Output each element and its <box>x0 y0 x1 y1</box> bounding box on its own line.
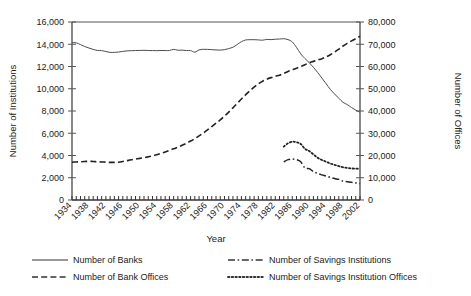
series-line-2 <box>284 159 360 184</box>
left-axis-tick-label: 12,000 <box>36 62 64 72</box>
x-axis-tick-label: 1978 <box>239 200 260 221</box>
right-axis-tick-label: 0 <box>368 195 373 205</box>
left-axis-tick-label: 14,000 <box>36 40 64 50</box>
right-axis-tick-label: 40,000 <box>368 106 396 116</box>
right-axis-tick-label: 20,000 <box>368 151 396 161</box>
x-axis-tick-label: 1934 <box>52 200 73 221</box>
right-axis-tick-label: 60,000 <box>368 62 396 72</box>
x-axis-tick-label: 1966 <box>188 200 209 221</box>
x-axis-tick-label: 1994 <box>306 200 327 221</box>
left-axis-title: Number of Institutions <box>7 65 18 158</box>
x-axis-tick-label: 1962 <box>171 200 192 221</box>
left-axis-tick-label: 2,000 <box>41 173 64 183</box>
series-line-3 <box>284 142 360 169</box>
series-line-0 <box>72 39 360 113</box>
x-axis-tick-label: 1950 <box>120 200 141 221</box>
legend-label-3: Number of Savings Institution Offices <box>269 272 417 282</box>
x-axis-tick-label: 1982 <box>255 200 276 221</box>
x-axis-tick-label: 1958 <box>154 200 175 221</box>
x-axis-title: Year <box>206 233 225 244</box>
x-axis-tick-label: 1946 <box>103 200 124 221</box>
left-axis-tick-label: 16,000 <box>36 17 64 27</box>
right-axis-tick-label: 80,000 <box>368 17 396 27</box>
x-axis-tick-label: 1938 <box>69 200 90 221</box>
right-axis-tick-label: 10,000 <box>368 173 396 183</box>
legend-label-2: Number of Bank Offices <box>73 272 169 282</box>
x-axis-tick-label: 2002 <box>340 200 361 221</box>
x-axis-tick-label: 1990 <box>289 200 310 221</box>
left-axis-tick-label: 10,000 <box>36 84 64 94</box>
chart-canvas: 02,0004,0006,0008,00010,00012,00014,0001… <box>0 0 471 296</box>
right-axis-tick-label: 50,000 <box>368 84 396 94</box>
right-axis-tick-label: 70,000 <box>368 40 396 50</box>
legend-label-0: Number of Banks <box>73 255 143 265</box>
right-axis-tick-label: 30,000 <box>368 129 396 139</box>
x-axis-tick-label: 1970 <box>205 200 226 221</box>
left-axis-tick-label: 4,000 <box>41 151 64 161</box>
left-axis-tick-label: 6,000 <box>41 129 64 139</box>
chart-figure: 02,0004,0006,0008,00010,00012,00014,0001… <box>0 0 471 296</box>
x-axis-tick-label: 1942 <box>86 200 107 221</box>
x-axis-tick-label: 1954 <box>137 200 158 221</box>
x-axis-tick-label: 1974 <box>222 200 243 221</box>
x-axis-tick-label: 1998 <box>323 200 344 221</box>
right-axis-title: Number of Offices <box>453 73 464 150</box>
series-line-1 <box>72 36 360 162</box>
legend-label-1: Number of Savings Institutions <box>269 255 392 265</box>
left-axis-tick-label: 8,000 <box>41 106 64 116</box>
x-axis-tick-label: 1986 <box>272 200 293 221</box>
